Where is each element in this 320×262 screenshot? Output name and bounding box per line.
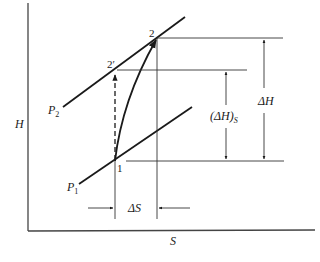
- point-1-label: 1: [117, 162, 123, 174]
- isobar-p2-label: P2: [47, 103, 59, 119]
- y-axis-label: H: [14, 117, 25, 131]
- isobar-p1: [79, 107, 192, 184]
- x-axis: [28, 230, 315, 231]
- isobar-p2: [63, 17, 185, 107]
- delta-s-label: ΔS: [127, 201, 141, 215]
- x-axis-label: S: [170, 234, 176, 248]
- point-2-label: 2: [149, 27, 155, 39]
- isobar-p1-label: P1: [66, 180, 78, 196]
- delta-hs-label: (ΔH)S: [210, 109, 238, 125]
- delta-h-label: ΔH: [257, 94, 275, 108]
- actual-process-curve: [115, 40, 156, 161]
- point-2s-label: 2′: [107, 58, 115, 70]
- hs-diagram: H S P2 P1 2 2′ 1 ΔH (ΔH)S ΔS: [0, 0, 320, 262]
